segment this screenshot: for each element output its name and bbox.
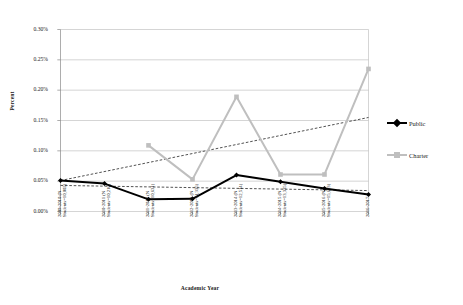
x-tick-label: 2009-2010 (NStudents=10,002) <box>57 183 68 216</box>
chart-figure: Percent 0.30%0.25%0.20%0.15%0.10%0.05%0.… <box>0 0 463 305</box>
legend-item-public[interactable]: Public <box>387 119 425 127</box>
x-tick-label: 2014-2015 (NStudents=13,335) <box>277 183 288 216</box>
chart-legend: Public Charter <box>387 0 463 305</box>
x-tick-label: 2011-2012 (NStudents=10,631) <box>145 183 156 216</box>
x-tick-label: 2015-2016 (NStudents=15,693) <box>321 183 332 216</box>
x-tick-label: 2012-2013 (NStudents=11,335) <box>189 183 200 216</box>
x-tick-label: 2013-2014 (NStudents=12,514) <box>233 183 244 216</box>
legend-item-charter[interactable]: Charter <box>387 151 428 159</box>
x-axis-title: Academic Year <box>0 285 400 291</box>
x-tick-label: 2010-2011 (NStudents=10,216) <box>101 183 112 216</box>
legend-label-charter: Charter <box>409 152 428 159</box>
charter-series-icon <box>387 151 407 159</box>
legend-label-public: Public <box>409 120 425 127</box>
public-series-icon <box>387 119 407 127</box>
x-tick-label: 2016-2017 <box>365 196 370 216</box>
